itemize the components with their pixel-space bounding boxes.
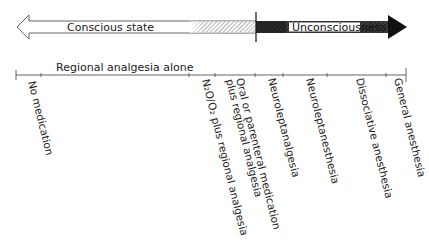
label-dissociative-anesthesia: Dissociative anesthesia [354,77,396,200]
conscious-state-label: Conscious state [67,21,154,34]
label-neuroleptanesthesia: Neuroleptanesthesia [304,77,342,185]
label-no-medication: No medication [26,80,56,157]
conscious-state-arrow: Conscious state [17,15,256,39]
tick-labels: No medication N₂O/O₂ plus regional analg… [26,77,428,237]
unconsciousness-label: Unconsciousness [292,21,387,34]
consciousness-spectrum-diagram: Conscious state Unconsciousness Regional… [0,0,429,249]
regional-analgesia-span-label: Regional analgesia alone [56,61,194,74]
unconsciousness-arrow: Unconsciousness [256,15,407,39]
label-neuroleptanalgesia: Neuroleptanalgesia [266,77,302,179]
label-general-anesthesia: General anesthesia [392,77,428,179]
